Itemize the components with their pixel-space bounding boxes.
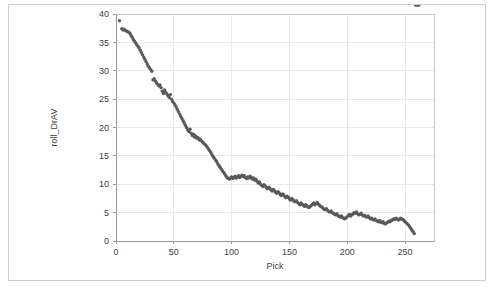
y-tick-label: 5 [104,208,109,218]
y-tick-label: 35 [99,38,109,48]
data-point [118,19,121,22]
gridlines [116,14,434,241]
y-tick-label: 30 [99,66,109,76]
y-tick-label: 15 [99,151,109,161]
y-tick-label: 20 [99,123,109,133]
data-point [150,70,153,73]
data-point [159,86,162,89]
chart-plot-container: 0510152025303540050100150200250Pickroll_… [9,5,487,282]
data-point [413,232,416,235]
y-axis-ticks: 0510152025303540 [99,9,116,246]
y-axis-title: roll_DrAV [49,109,59,147]
data-point [169,93,172,96]
data-point [188,128,191,131]
x-axis-ticks: 050100150200250 [113,241,412,257]
x-tick-label: 250 [398,247,413,257]
scatter-chart[interactable]: 0510152025303540050100150200250Pickroll_… [9,5,487,282]
y-tick-label: 25 [99,94,109,104]
x-tick-label: 200 [340,247,355,257]
x-axis-title: Pick [266,261,284,271]
x-tick-label: 50 [169,247,179,257]
x-tick-label: 150 [282,247,297,257]
y-tick-label: 10 [99,179,109,189]
data-series-roll-drav [118,5,421,235]
chart-frame: 0510152025303540050100150200250Pickroll_… [8,4,486,281]
y-tick-label: 0 [104,236,109,246]
x-tick-label: 100 [224,247,239,257]
y-tick-label: 40 [99,9,109,19]
x-tick-label: 0 [113,247,118,257]
